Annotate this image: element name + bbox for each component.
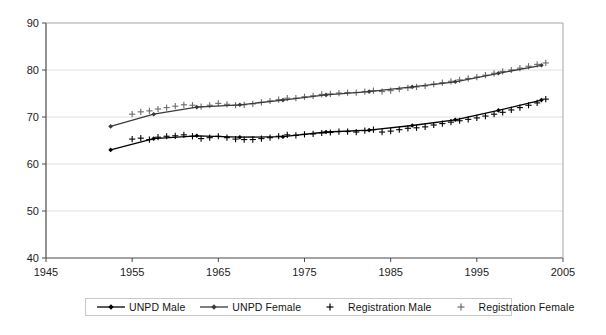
legend-item-label: Registration Female <box>479 301 575 313</box>
legend-line-diamond-icon <box>199 301 229 313</box>
svg-text:90: 90 <box>27 17 39 29</box>
svg-text:60: 60 <box>27 158 39 170</box>
legend-item-label: UNPD Male <box>129 301 185 313</box>
legend-item-label: Registration Male <box>348 301 431 313</box>
svg-text:1985: 1985 <box>378 266 402 278</box>
series-unpd-female <box>108 63 543 129</box>
svg-text:1965: 1965 <box>206 266 230 278</box>
legend-item-unpd-male[interactable]: UNPD Male <box>96 301 185 313</box>
svg-text:1995: 1995 <box>465 266 489 278</box>
legend-item-registration-male[interactable]: Registration Male <box>315 301 431 313</box>
legend-item-label: UNPD Female <box>232 301 301 313</box>
svg-text:1945: 1945 <box>34 266 58 278</box>
svg-text:1975: 1975 <box>292 266 316 278</box>
chart-container: 405060708090 194519551965197519851995200… <box>0 0 606 335</box>
x-axis-labels: 1945195519651975198519952005 <box>34 266 575 278</box>
legend-item-registration-female[interactable]: Registration Female <box>446 301 575 313</box>
series-registration-female <box>129 60 549 117</box>
legend-plus-icon <box>315 301 345 313</box>
svg-text:2005: 2005 <box>551 266 575 278</box>
y-axis-labels: 405060708090 <box>27 17 39 264</box>
legend-item-unpd-female[interactable]: UNPD Female <box>199 301 301 313</box>
svg-text:70: 70 <box>27 111 39 123</box>
plot-frame <box>46 23 563 258</box>
chart-legend: UNPD MaleUNPD FemaleRegistration MaleReg… <box>85 298 512 316</box>
legend-line-diamond-icon <box>96 301 126 313</box>
svg-text:50: 50 <box>27 205 39 217</box>
legend-plus-icon <box>446 301 476 313</box>
grid-lines <box>46 70 563 211</box>
svg-text:1955: 1955 <box>120 266 144 278</box>
svg-text:80: 80 <box>27 64 39 76</box>
svg-text:40: 40 <box>27 252 39 264</box>
line-chart: 405060708090 194519551965197519851995200… <box>0 0 606 335</box>
